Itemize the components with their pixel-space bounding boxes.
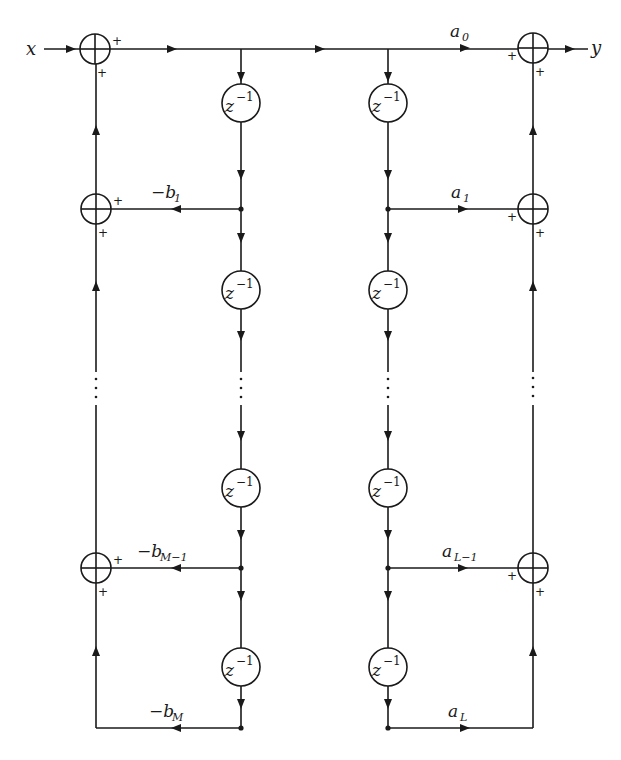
plus-sign: +: [112, 34, 122, 48]
plus-sign: +: [535, 226, 545, 240]
arrow-down-icon: [237, 699, 245, 709]
plus-sign: +: [535, 65, 545, 79]
output-label: y: [590, 37, 602, 58]
arrow-down-icon: [237, 591, 245, 601]
svg-text:M−1: M−1: [159, 551, 187, 564]
svg-text:−b: −b: [149, 701, 174, 721]
arrow-down-icon: [384, 431, 392, 441]
delay-col1-2: z −1: [222, 271, 260, 309]
delay-col2-4: z −1: [369, 648, 407, 686]
junction-dot: [238, 725, 243, 730]
arrow-down-icon: [384, 331, 392, 341]
arrow-up-icon: [92, 646, 100, 656]
arrow-up-icon: [529, 646, 537, 656]
svg-text:M: M: [171, 711, 184, 724]
delay-col2-1: z −1: [369, 84, 407, 122]
svg-text:−1: −1: [236, 475, 254, 489]
arrow-down-icon: [384, 699, 392, 709]
arrowheads: [66, 44, 575, 732]
plus-sign: +: [507, 569, 517, 583]
gain-b1: −b 1: [151, 182, 181, 205]
arrow-left-icon: [171, 564, 181, 572]
plus-sign: +: [113, 553, 123, 567]
svg-text:L−1: L−1: [453, 551, 478, 564]
arrow-right-icon: [458, 205, 468, 213]
arrow-down-icon: [237, 233, 245, 243]
svg-text:−1: −1: [236, 90, 254, 104]
delay-col1-1: z −1: [222, 84, 260, 122]
plus-sign: +: [97, 66, 107, 80]
svg-text:−b: −b: [151, 182, 176, 202]
svg-text:−1: −1: [383, 475, 401, 489]
adder-left-0: + +: [80, 34, 122, 80]
junction-dot: [385, 725, 390, 730]
junction-dot: [385, 565, 390, 570]
svg-text:z: z: [224, 283, 235, 303]
svg-text:−1: −1: [383, 277, 401, 291]
adder-right-1: + +: [507, 194, 548, 240]
adder-right-0: + +: [507, 33, 548, 79]
delay-col1-4: z −1: [222, 648, 260, 686]
adder-left-1: + +: [81, 194, 123, 240]
junction-dot: [238, 206, 243, 211]
gain-a1: a 1: [451, 182, 470, 205]
junction-dots: [238, 206, 390, 730]
svg-text:1: 1: [174, 192, 181, 205]
adders: + + + + + + + + + +: [80, 33, 548, 599]
adder-right-l-1: + +: [507, 553, 548, 599]
wires: [44, 49, 588, 728]
svg-text:z: z: [224, 96, 235, 116]
svg-text:a: a: [442, 541, 452, 561]
junction-dot: [238, 565, 243, 570]
svg-text:1: 1: [463, 192, 470, 205]
arrow-down-icon: [237, 170, 245, 180]
arrow-up-icon: [529, 281, 537, 291]
plus-sign: +: [507, 49, 517, 63]
svg-text:a: a: [450, 21, 460, 41]
arrow-down-icon: [384, 233, 392, 243]
arrow-up-icon: [92, 125, 100, 135]
svg-text:−1: −1: [383, 654, 401, 668]
svg-text:z: z: [371, 96, 382, 116]
svg-text:z: z: [371, 481, 382, 501]
iir-filter-diagram: + + + + + + + + + +: [0, 0, 621, 760]
arrow-right-icon: [458, 564, 468, 572]
ellipsis-delay-col1: [240, 378, 243, 399]
svg-text:−1: −1: [383, 90, 401, 104]
gain-a0: a 0: [450, 21, 469, 44]
gain-a-l: a L: [448, 701, 467, 724]
plus-sign: +: [507, 210, 517, 224]
arrow-down-icon: [384, 72, 392, 82]
plus-sign: +: [98, 585, 108, 599]
plus-sign: +: [535, 585, 545, 599]
svg-text:−1: −1: [236, 654, 254, 668]
arrow-down-icon: [384, 591, 392, 601]
svg-text:z: z: [224, 660, 235, 680]
arrow-right-icon: [460, 44, 470, 52]
arrow-up-icon: [529, 125, 537, 135]
arrow-down-icon: [384, 530, 392, 540]
svg-text:z: z: [371, 283, 382, 303]
gain-labels: a 0 a 1 a L−1 a L −b 1 −b M−1 −b M: [137, 21, 478, 724]
adder-left-m-1: + +: [81, 553, 123, 599]
svg-text:−1: −1: [236, 277, 254, 291]
arrow-right-icon: [66, 45, 76, 53]
arrow-down-icon: [237, 331, 245, 341]
svg-text:L: L: [459, 711, 467, 724]
delay-col2-3: z −1: [369, 469, 407, 507]
arrow-down-icon: [384, 170, 392, 180]
input-label: x: [26, 38, 36, 59]
ellipsis-right: [532, 377, 535, 398]
arrow-left-icon: [171, 724, 181, 732]
arrow-down-icon: [237, 72, 245, 82]
arrow-down-icon: [237, 431, 245, 441]
ellipsis-delay-col2: [387, 378, 390, 399]
arrow-down-icon: [237, 530, 245, 540]
arrow-right-icon: [565, 45, 575, 53]
svg-text:z: z: [371, 660, 382, 680]
gain-b-m: −b M: [149, 701, 184, 724]
arrow-right-icon: [460, 724, 470, 732]
plus-sign: +: [98, 226, 108, 240]
ellipsis-left: [95, 378, 98, 399]
svg-text:0: 0: [462, 31, 469, 44]
